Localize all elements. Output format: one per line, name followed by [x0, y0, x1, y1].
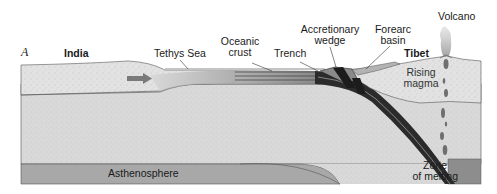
- volcano-plume: [440, 26, 451, 56]
- label-asthenosphere: Asthenosphere: [108, 168, 179, 179]
- label-trench: Trench: [274, 48, 306, 59]
- label-rising-magma: Rising magma: [398, 67, 444, 89]
- label-tibet: Tibet: [404, 48, 429, 59]
- tethys-sea: [165, 68, 325, 70]
- asthenosphere-layer: [21, 164, 340, 184]
- label-zone-line2: of melting: [402, 171, 458, 182]
- label-india: India: [64, 48, 89, 59]
- label-tethys-sea: Tethys Sea: [154, 48, 206, 59]
- panel-letter: A: [21, 47, 28, 58]
- label-volcano: Volcano: [438, 11, 475, 22]
- label-zone-of-melting: Zone of melting: [402, 160, 458, 182]
- label-oceanic-crust-line2: crust: [215, 47, 265, 58]
- label-rising-line2: magma: [398, 78, 444, 89]
- label-forearc-basin: Forearc basin: [368, 24, 418, 46]
- label-forearc-line2: basin: [368, 35, 418, 46]
- label-accretionary-wedge: Accretionary wedge: [297, 24, 363, 46]
- label-oceanic-crust: Oceanic crust: [215, 36, 265, 58]
- label-accretionary-line2: wedge: [297, 35, 363, 46]
